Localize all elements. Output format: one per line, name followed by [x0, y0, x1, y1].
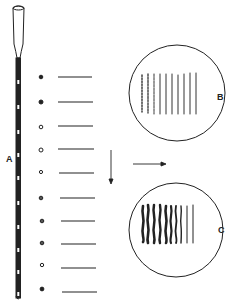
drop [39, 196, 43, 200]
drop [40, 287, 44, 291]
label-a: A [6, 155, 13, 164]
drop [39, 125, 43, 129]
drops-column [39, 75, 44, 291]
drop [40, 219, 44, 223]
drop [39, 170, 42, 173]
pipette [13, 6, 24, 299]
drop [39, 75, 43, 79]
diagram-canvas [0, 0, 230, 305]
right-arrow-icon [133, 162, 166, 166]
drop [40, 263, 43, 266]
down-arrow-icon [109, 150, 113, 184]
label-b: B [217, 93, 224, 102]
smear-lines-column [58, 77, 97, 292]
label-c: C [218, 226, 225, 235]
microscope-field-b [129, 45, 225, 141]
drop [39, 100, 43, 104]
drop [39, 148, 43, 152]
microscope-field-c [129, 183, 223, 277]
drop [40, 241, 44, 245]
